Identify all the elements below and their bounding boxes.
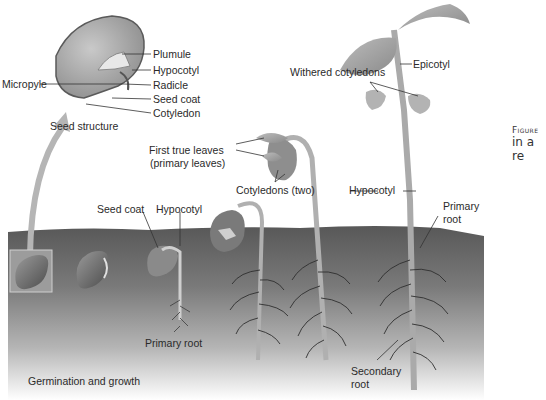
seed-stage-1 bbox=[10, 250, 52, 292]
label-withered-cotyledons: Withered cotyledons bbox=[290, 66, 385, 78]
label-primary-root-stage3: Primary root bbox=[145, 337, 202, 349]
figure-caption-heading: Figure bbox=[512, 125, 538, 135]
seed-structure-title: Seed structure bbox=[50, 120, 118, 132]
figure-caption-text: in a re bbox=[512, 135, 546, 163]
label-secondary-root-line2: root bbox=[351, 378, 369, 390]
label-primary-root-line1: Primary bbox=[443, 200, 479, 212]
label-hypocotyl-seed: Hypocotyl bbox=[153, 64, 199, 76]
label-hypocotyl-stage3: Hypocotyl bbox=[156, 203, 202, 215]
label-seed-coat: Seed coat bbox=[153, 93, 200, 105]
label-epicotyl: Epicotyl bbox=[413, 58, 450, 70]
label-primary-root-line2: root bbox=[443, 213, 461, 225]
label-cotyledon: Cotyledon bbox=[153, 107, 200, 119]
label-cotyledons-two: Cotyledons (two) bbox=[236, 184, 315, 196]
seed-structure bbox=[40, 16, 151, 113]
label-plumule: Plumule bbox=[153, 48, 191, 60]
label-first-true-leaves: First true leaves bbox=[149, 144, 224, 156]
label-radicle: Radicle bbox=[153, 79, 188, 91]
soil bbox=[8, 226, 546, 400]
label-primary-leaves: (primary leaves) bbox=[150, 157, 225, 169]
label-micropyle: Micropyle bbox=[2, 78, 47, 90]
germination-diagram: Plumule Hypocotyl Micropyle Radicle Seed… bbox=[0, 0, 546, 400]
label-secondary-root-line1: Secondary bbox=[351, 365, 401, 377]
section-title: Germination and growth bbox=[28, 375, 140, 387]
label-hypocotyl-stage5: Hypocotyl bbox=[349, 184, 395, 196]
label-seed-coat-stage3: Seed coat bbox=[97, 203, 144, 215]
